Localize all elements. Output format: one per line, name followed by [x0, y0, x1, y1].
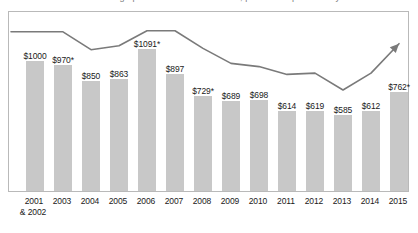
- x-axis-tick-label: 2006: [137, 196, 156, 207]
- bar-value-label: $612: [362, 101, 381, 111]
- plot-frame: $1000$970*$850$863$1091*$897$729*$689$69…: [8, 11, 409, 192]
- bar: [250, 100, 268, 191]
- bar: [110, 79, 128, 191]
- x-axis-tick-label: 2015: [389, 196, 408, 207]
- x-axis-tick-label: 2013: [333, 196, 352, 207]
- x-axis-tick-label: 2008: [193, 196, 212, 207]
- bar-value-label: $585: [334, 105, 353, 115]
- bar: [222, 101, 240, 191]
- bar: [278, 111, 296, 191]
- bar-value-label: $1000: [23, 51, 46, 61]
- chart-container: average published tuition and fees, priv…: [0, 0, 418, 233]
- bar: [138, 49, 156, 191]
- bar-value-label: $1091*: [134, 39, 160, 49]
- x-axis-tick-label: 2001& 2002: [22, 196, 46, 218]
- bar-value-label: $729*: [192, 86, 214, 96]
- bar-value-label: $619: [306, 101, 325, 111]
- bar-value-label: $762*: [388, 82, 410, 92]
- bar-value-label: $689: [222, 91, 241, 101]
- x-axis-tick-label: 2003: [53, 196, 72, 207]
- bar-value-label: $970*: [52, 55, 74, 65]
- x-axis-tick-label: 2011: [277, 196, 295, 207]
- x-axis-tick-label: 2004: [81, 196, 100, 207]
- bar-value-label: $698: [250, 90, 269, 100]
- cropped-title-sliver: average published tuition and fees, priv…: [0, 0, 418, 7]
- x-axis-tick-label: 2012: [305, 196, 324, 207]
- bar-value-label: $850: [82, 71, 101, 81]
- x-axis-tick-label: 2010: [249, 196, 268, 207]
- bar: [362, 111, 380, 191]
- cropped-title-text: average published tuition and fees, priv…: [96, 0, 401, 2]
- x-axis-labels: 2001& 2002200320042005200620072008200920…: [8, 196, 409, 230]
- x-axis-tick-label: 2014: [361, 196, 380, 207]
- x-axis-tick-label: 2009: [221, 196, 240, 207]
- bar-value-label: $897: [166, 64, 185, 74]
- x-axis-tick-label: 2007: [165, 196, 184, 207]
- bar: [390, 92, 408, 191]
- plot-area: $1000$970*$850$863$1091*$897$729*$689$69…: [9, 12, 408, 191]
- bar: [306, 111, 324, 191]
- bar: [82, 81, 100, 192]
- bar-value-label: $614: [278, 101, 297, 111]
- trend-line-arrowhead: [390, 44, 399, 53]
- bar: [26, 61, 44, 191]
- bar: [166, 74, 184, 191]
- bar: [54, 65, 72, 191]
- bar-value-label: $863: [110, 69, 129, 79]
- x-axis-tick-label: 2005: [109, 196, 128, 207]
- bar: [334, 115, 352, 191]
- bar: [194, 96, 212, 191]
